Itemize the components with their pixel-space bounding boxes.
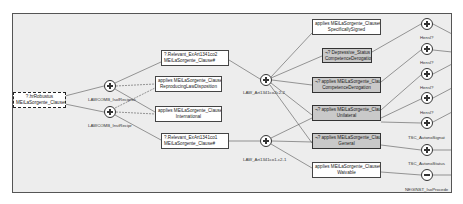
node-line2: Unilateral (315, 113, 378, 119)
combiner-label: LAWCOMB_IsolReciproc (88, 97, 136, 102)
right-node[interactable]: applies MEiLaSorgente_Clause# Waivable (312, 162, 381, 178)
middle-node[interactable]: applies MEiLaSorgente_Clause# Reproducin… (155, 76, 222, 92)
node-line2: MEiLaSorgente_Clause# (164, 58, 226, 64)
right-node[interactable]: ¬? applies MEiLaSorgente_Clause# General (312, 133, 381, 149)
combiner-plus-icon[interactable] (104, 80, 116, 92)
node-line2: MEiLaSorgente_Clause# (164, 141, 226, 147)
diagram-edges (0, 0, 463, 204)
combiner-plus-icon[interactable] (421, 18, 433, 30)
node-line2: SpecificallySigned (315, 27, 378, 33)
root-node[interactable]: ?.hrRobustus MEiLaSorgente_Clause# (13, 92, 66, 108)
combiner-plus-icon[interactable] (260, 74, 272, 86)
combiner-plus-icon[interactable] (260, 135, 272, 147)
combiner-label: LAW_Art1341co1-c2-1 (243, 157, 286, 162)
node-line2: General (315, 141, 378, 147)
combiner-label: Hensl? (420, 110, 433, 115)
root-node-line2: MEiLaSorgente_Clause# (16, 100, 63, 106)
combiner-label: TSC_AutonoStatus (408, 161, 445, 166)
right-node[interactable]: applies MEiLaSorgente_Clause# Specifical… (312, 19, 381, 35)
combiner-plus-icon[interactable] (421, 43, 433, 55)
combiner-plus-icon[interactable] (421, 117, 433, 129)
combiner-plus-icon[interactable] (421, 144, 433, 156)
combiner-minus-icon[interactable] (421, 169, 433, 181)
node-line2: International (158, 114, 219, 120)
right-node[interactable]: ¬? applies MEiLaSorgente_Clause# Compete… (312, 77, 381, 93)
node-line2: ReproducingLawDisposition (158, 84, 219, 90)
right-node[interactable]: ¬? applies MEiLaSorgente_Clause# Unilate… (312, 105, 381, 121)
node-line2: Waivable (315, 170, 378, 176)
node-line2: CompetenceDerogation (325, 56, 369, 62)
combiner-plus-icon[interactable] (421, 92, 433, 104)
combiner-plus-icon[interactable] (104, 106, 116, 118)
middle-node[interactable]: applies MEiLaSorgente_Clause# Internatio… (155, 106, 222, 122)
right-node[interactable]: ¬? Depressive_Status CompetenceDerogatio… (322, 48, 372, 63)
footer-label: NEGINST_IsoProcede (405, 187, 448, 192)
combiner-label: Hensl? (420, 35, 433, 40)
middle-node[interactable]: ?.Relevant_ExArt1341co2 MEiLaSorgente_Cl… (161, 50, 229, 66)
combiner-label: LAW_Art1341co2c2-2 (243, 90, 285, 95)
combiner-label: LAWCOMB_InstRecipr (88, 123, 132, 128)
combiner-label: Hensl? (420, 85, 433, 90)
combiner-label: TSC_AutonoSignat (408, 135, 445, 140)
combiner-plus-icon[interactable] (421, 68, 433, 80)
node-line2: CompetenceDerogation (315, 85, 378, 91)
middle-node[interactable]: ?.Relevant_ExArt1341co1 MEiLaSorgente_Cl… (161, 133, 229, 149)
combiner-label: Hensl? (420, 60, 433, 65)
